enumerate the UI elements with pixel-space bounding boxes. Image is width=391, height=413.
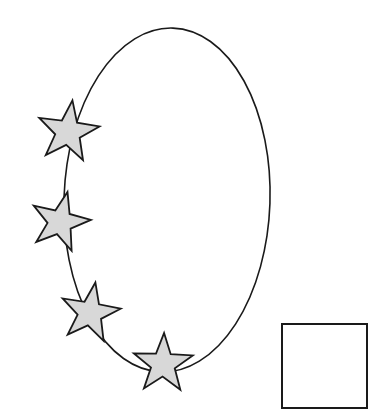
square-shape[interactable] (282, 324, 367, 408)
figure-svg (0, 0, 391, 413)
star-4-shape[interactable] (134, 333, 193, 390)
drawing-canvas (0, 0, 391, 413)
star-2-shape[interactable] (34, 192, 91, 251)
star-3-shape[interactable] (63, 282, 121, 340)
